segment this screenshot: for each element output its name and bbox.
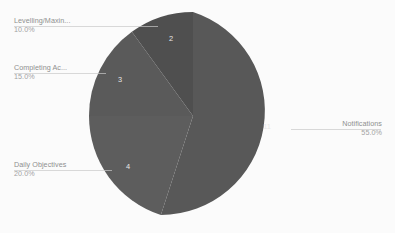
callout-levelling-maxing: Levelling/Maxin... 10.0%: [14, 16, 70, 34]
slice-value-completing-achievements: 3: [118, 75, 122, 84]
pie-chart-container: 11 4 3 2 Levelling/Maxin... 10.0% Comple…: [0, 0, 395, 233]
callout-percent-completing-achievements: 15.0%: [14, 72, 67, 81]
slice-value-levelling-maxing: 2: [169, 34, 173, 43]
callout-notifications: Notifications 55.0%: [342, 119, 382, 137]
callout-category-completing-achievements: Completing Ac...: [14, 63, 67, 72]
callout-category-daily-objectives: Daily Objectives: [14, 160, 66, 169]
callout-category-notifications: Notifications: [342, 119, 382, 128]
slice-value-notifications: 11: [263, 122, 271, 131]
callout-percent-notifications: 55.0%: [342, 128, 382, 137]
callout-daily-objectives: Daily Objectives 20.0%: [14, 160, 66, 178]
callout-completing-achievements: Completing Ac... 15.0%: [14, 63, 67, 81]
callout-percent-daily-objectives: 20.0%: [14, 169, 66, 178]
pie-chart-canvas: [0, 0, 395, 233]
callout-category-levelling-maxing: Levelling/Maxin...: [14, 16, 70, 25]
slice-value-daily-objectives: 4: [126, 162, 130, 171]
callout-percent-levelling-maxing: 10.0%: [14, 25, 70, 34]
